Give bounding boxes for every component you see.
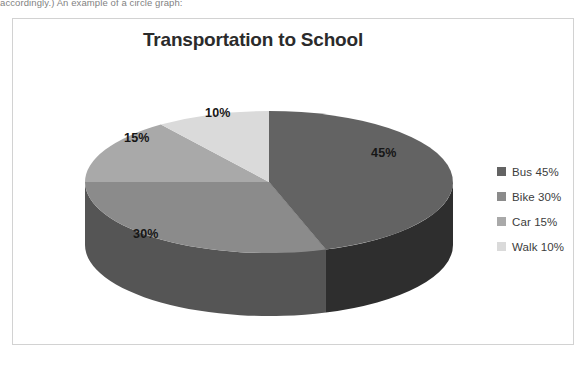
slice-label-car: 15% — [124, 131, 150, 145]
legend-item-bike: Bike 30% — [497, 184, 575, 209]
slice-label-bus: 45% — [371, 146, 397, 160]
slice-label-walk: 10% — [205, 106, 231, 120]
pie-chart-3d — [13, 19, 513, 346]
scanned-page-text-fragment: accordingly.) An example of a circle gra… — [0, 0, 586, 9]
legend-item-car: Car 15% — [497, 209, 575, 234]
legend-swatch-bike — [497, 192, 506, 201]
legend-swatch-bus — [497, 167, 506, 176]
chart-frame: Transportation to School 45% 30% 15% 10%… — [12, 18, 574, 345]
legend-label-walk: Walk 10% — [512, 241, 564, 253]
legend-label-car: Car 15% — [512, 216, 557, 228]
legend-label-bike: Bike 30% — [512, 191, 561, 203]
legend-label-bus: Bus 45% — [512, 166, 559, 178]
slice-label-bike: 30% — [133, 227, 159, 241]
legend-swatch-walk — [497, 242, 506, 251]
legend-item-bus: Bus 45% — [497, 159, 575, 184]
legend-item-walk: Walk 10% — [497, 234, 575, 259]
chart-legend: Bus 45% Bike 30% Car 15% Walk 10% — [497, 159, 575, 259]
legend-swatch-car — [497, 217, 506, 226]
